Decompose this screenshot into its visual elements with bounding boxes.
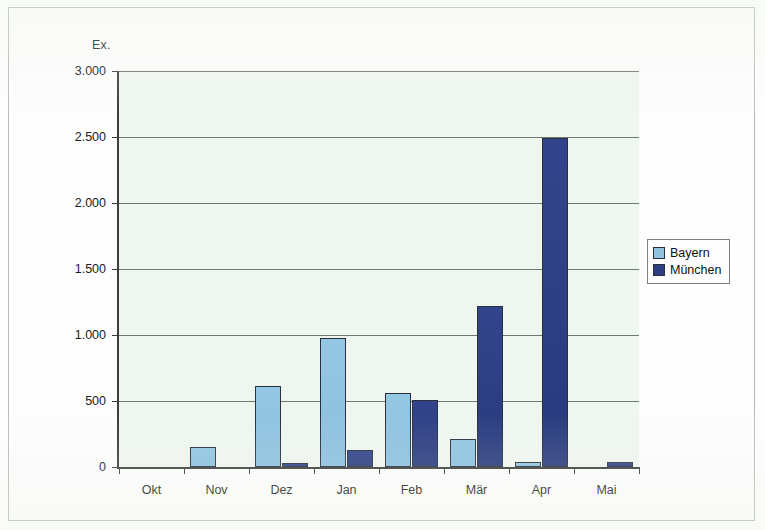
legend-swatch-muenchen: [653, 264, 665, 276]
y-axis-tick-label: 3.000: [75, 64, 106, 78]
legend-swatch-bayern: [653, 247, 665, 259]
y-axis-tick-label: 1.000: [75, 328, 106, 342]
bar-bayern-apr: [515, 462, 541, 467]
x-axis-tick-label: Okt: [142, 483, 161, 497]
legend-label-muenchen: München: [670, 263, 721, 277]
bar-münchen-dez: [282, 463, 308, 467]
y-axis-tick-label: 1.500: [75, 262, 106, 276]
y-axis-tick-label: 2.500: [75, 130, 106, 144]
y-axis-tick-label: 500: [85, 394, 106, 408]
bar-bayern-mär: [450, 439, 476, 467]
x-axis-tick: [314, 467, 315, 474]
x-axis-tick-label: Apr: [532, 483, 551, 497]
bar-bayern-dez: [255, 386, 281, 467]
y-axis-tick: [112, 269, 119, 270]
legend-item-bayern: Bayern: [653, 244, 721, 261]
bar-münchen-jan: [347, 450, 373, 467]
x-axis-tick-label: Dez: [270, 483, 292, 497]
chart-legend: Bayern München: [647, 239, 730, 284]
x-axis-tick: [574, 467, 575, 474]
x-axis-tick: [444, 467, 445, 474]
x-axis-tick: [119, 467, 120, 474]
x-axis-tick-label: Feb: [401, 483, 423, 497]
y-axis-tick: [112, 203, 119, 204]
bar-münchen-feb: [412, 400, 438, 467]
x-axis-tick: [249, 467, 250, 474]
chart-figure: Ex. 05001.0001.5002.0002.5003.000 OktNov…: [0, 0, 765, 530]
bar-münchen-mai: [607, 462, 633, 467]
bar-münchen-apr: [542, 138, 568, 467]
x-axis-tick-label: Mär: [466, 483, 488, 497]
plot-area: 05001.0001.5002.0002.5003.000 OktNovDezJ…: [117, 71, 639, 469]
bar-bayern-feb: [385, 393, 411, 467]
x-axis-tick-label: Nov: [205, 483, 227, 497]
gridline: [119, 71, 639, 72]
x-axis-tick: [509, 467, 510, 474]
x-axis-tick: [639, 467, 640, 474]
x-axis-tick-label: Jan: [336, 483, 356, 497]
y-axis-tick: [112, 335, 119, 336]
legend-item-muenchen: München: [653, 261, 721, 278]
y-axis-tick: [112, 71, 119, 72]
y-axis-unit-label: Ex.: [92, 38, 111, 52]
y-axis-tick-label: 0: [99, 460, 106, 474]
x-axis-tick-label: Mai: [596, 483, 616, 497]
y-axis-tick: [112, 137, 119, 138]
y-axis-tick: [112, 401, 119, 402]
bar-bayern-jan: [320, 338, 346, 467]
x-axis-tick: [379, 467, 380, 474]
bar-münchen-mär: [477, 306, 503, 467]
y-axis-tick: [112, 467, 119, 468]
y-axis-tick-label: 2.000: [75, 196, 106, 210]
bar-bayern-nov: [190, 447, 216, 467]
x-axis-tick: [184, 467, 185, 474]
legend-label-bayern: Bayern: [670, 246, 710, 260]
